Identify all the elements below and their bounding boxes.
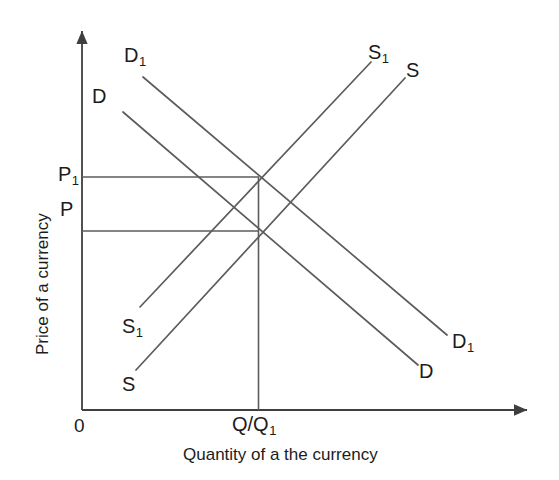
- curve-label-s1-bottom: S1: [122, 316, 143, 336]
- origin-label: 0: [74, 416, 85, 435]
- x-tick-label-q: Q/Q1: [232, 414, 276, 434]
- curve-label-d1-top: D1: [124, 45, 146, 65]
- supply-curve-s1: [140, 62, 371, 307]
- y-axis-title: Price of a currency: [34, 213, 51, 355]
- y-tick-label-p1: P1: [58, 164, 79, 184]
- y-tick-label-p: P: [60, 199, 73, 219]
- demand-curve-d1: [143, 77, 447, 335]
- supply-curve-s: [136, 78, 405, 370]
- curve-label-d1-bottom: D1: [452, 331, 474, 351]
- x-axis-title: Quantity of a the currency: [183, 446, 378, 463]
- chart-canvas: [0, 0, 559, 480]
- supply-demand-chart: D1 D S1 S S1 S D1 D P1 P Q/Q1 0 Price of…: [0, 0, 559, 480]
- curve-label-s-bottom: S: [122, 374, 135, 394]
- curve-label-s-top: S: [406, 60, 419, 80]
- demand-curve-d: [123, 112, 418, 365]
- curve-label-d-bottom: D: [419, 361, 433, 381]
- curve-label-s1-top: S1: [368, 42, 389, 62]
- curve-label-d-top: D: [92, 86, 106, 106]
